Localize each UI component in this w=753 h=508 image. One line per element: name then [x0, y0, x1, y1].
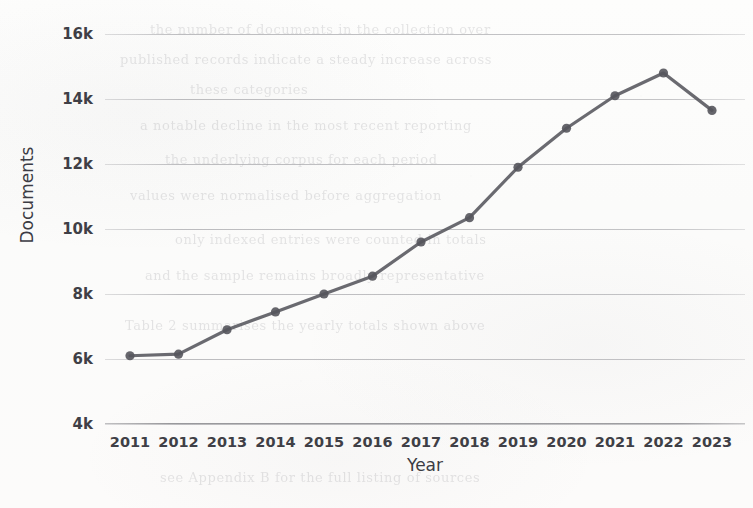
x-axis-tick-label: 2018 [449, 434, 489, 450]
y-axis-label: Documents [10, 0, 44, 390]
series-line [130, 73, 712, 356]
plot-area: 16k14k12k10k8k6k4k 201120122013201420152… [105, 34, 745, 424]
x-axis-tick-label: 2016 [352, 434, 392, 450]
x-axis-tick-label: 2013 [207, 434, 247, 450]
y-axis-tick-label: 4k [37, 415, 93, 433]
chart-page: the number of documents in the collectio… [0, 0, 753, 508]
data-point-marker [707, 106, 716, 115]
data-point-marker [465, 213, 474, 222]
y-axis-tick-label: 8k [37, 285, 93, 303]
y-axis-tick-label: 16k [37, 25, 93, 43]
y-axis-tick-label: 10k [37, 220, 93, 238]
y-axis-label-text: Documents [17, 147, 37, 244]
x-axis-tick-label: 2015 [304, 434, 344, 450]
x-axis-tick-label: 2020 [546, 434, 586, 450]
data-point-marker [610, 91, 619, 100]
y-axis-tick-label: 12k [37, 155, 93, 173]
data-point-marker [368, 272, 377, 281]
x-axis-tick-label: 2012 [158, 434, 198, 450]
data-point-marker [271, 307, 280, 316]
y-axis-tick-label: 14k [37, 90, 93, 108]
x-axis-tick-label: 2022 [643, 434, 683, 450]
y-axis-tick-label: 6k [37, 350, 93, 368]
data-point-marker [125, 351, 134, 360]
data-point-marker [513, 163, 522, 172]
x-axis-tick-label: 2021 [595, 434, 635, 450]
gridline [105, 424, 745, 425]
data-point-marker [222, 325, 231, 334]
x-axis-label: Year [105, 455, 745, 475]
data-point-marker [319, 289, 328, 298]
x-axis-tick-label: 2014 [255, 434, 295, 450]
data-point-marker [174, 350, 183, 359]
data-point-marker [659, 68, 668, 77]
x-axis-tick-label: 2023 [692, 434, 732, 450]
data-point-marker [416, 237, 425, 246]
x-axis-tick-label: 2017 [401, 434, 441, 450]
line-series [105, 34, 745, 424]
x-axis-tick-label: 2011 [110, 434, 150, 450]
data-point-marker [562, 124, 571, 133]
x-axis-tick-label: 2019 [498, 434, 538, 450]
